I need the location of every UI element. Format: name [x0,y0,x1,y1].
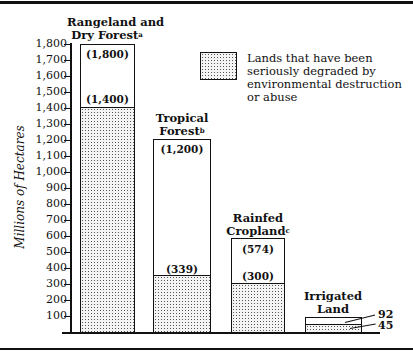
y-axis-label: Millions of Hectares [13,125,27,248]
value-label-rainfed-degraded: (300) [231,270,285,282]
category-title-rangeland: Rangeland and Dry Foresta [67,16,147,42]
category-title-line: Cropland [226,224,285,238]
y-tick-label: 1,000 [36,166,68,178]
bar-rainfed-degraded [232,283,284,332]
category-title-rainfed: Rainfed Croplandc [218,212,298,238]
footnote-marker: c [285,226,289,235]
y-tick-label: 1,100 [36,150,68,162]
bar-rangeland-degraded [81,107,134,332]
category-title-tropical: Tropical Forestb [142,112,222,138]
legend-label-degraded: Lands that have been seriously degraded … [247,52,412,104]
footnote-marker: a [138,30,143,39]
bottom-rule [0,348,413,350]
y-tick-label: 1,400 [36,102,68,114]
legend-swatch-degraded [200,52,237,80]
y-tick-label: 1,800 [36,38,68,50]
top-rule [0,1,413,4]
bar-tropical-degraded [154,275,210,332]
y-tick-label: 1,200 [36,134,68,146]
value-label-rainfed-total: (574) [231,243,285,255]
y-tick-label: 1,300 [36,118,68,130]
value-label-rangeland-degraded: (1,400) [80,93,135,105]
value-label-rangeland-total: (1,800) [80,48,135,60]
value-label-tropical-total: (1,200) [153,143,211,155]
bar-rangeland-total [80,44,135,333]
category-title-line: Dry Forest [71,28,138,42]
category-title-irrigated: Irrigated Land [293,290,373,316]
bar-tropical-total [153,139,211,333]
value-label-irrigated-degraded: 45 [378,319,393,332]
y-axis-line [70,43,72,333]
y-tick-label: 1,600 [36,70,68,82]
y-tick-label: 1,500 [36,86,68,98]
category-title-line: Forest [159,124,199,138]
category-title-line: Land [293,303,373,316]
footnote-marker: b [200,126,205,135]
y-tick-label: 1,700 [36,54,68,66]
value-label-tropical-degraded: (339) [153,263,211,275]
